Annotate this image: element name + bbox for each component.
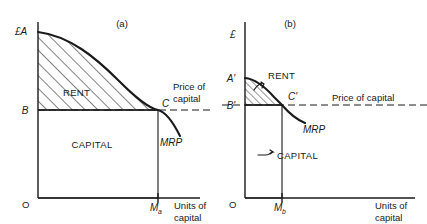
panel-b-label: (b) [284, 18, 296, 29]
panel-b-point-c-label: C' [288, 91, 298, 102]
panel-a-mrp-label: MRP [160, 137, 183, 148]
panel-b-x-axis-label-line2: capital [375, 212, 402, 223]
panel-a-x-axis-label-line2: capital [174, 212, 201, 223]
panel-a-capital-label: CAPITAL [72, 139, 113, 150]
panel-b-capital-label: CAPITAL [277, 150, 318, 161]
panel-a-price-label-line1: Price of [173, 81, 206, 92]
panel-b-point-a-label: A' [226, 73, 237, 84]
panel-a-origin-label: O [22, 199, 29, 210]
panel-b-mrp-label: MRP [303, 124, 326, 135]
figure-canvas: (a) £A B C MRP RENT CAPITAL Price of cap… [0, 0, 427, 224]
economic-rent-figure: (a) £A B C MRP RENT CAPITAL Price of cap… [0, 0, 427, 224]
panel-b-quantity-subscript: b [282, 208, 286, 215]
panel-a-quantity-subscript: a [158, 208, 162, 215]
panel-b-rent-label: RENT [268, 70, 295, 81]
panel-b-point-b-label: B' [227, 100, 237, 111]
panel-a-label: (a) [116, 18, 128, 29]
panel-a-rent-label: RENT [63, 87, 90, 98]
panel-a-price-label-line2: capital [173, 93, 200, 104]
panel-b-x-axis-label-line1: Units of [375, 200, 408, 211]
panel-b-price-label: Price of capital [332, 92, 394, 103]
panel-a-y-axis-label: £A [14, 26, 28, 37]
figure-background [0, 0, 427, 224]
panel-a-point-b-label: B [22, 105, 29, 116]
panel-a-point-c-label: C [162, 98, 170, 109]
panel-b-y-axis-label: £ [229, 29, 236, 40]
panel-b-origin-label: O [229, 199, 236, 210]
panel-a-x-axis-label-line1: Units of [174, 200, 207, 211]
